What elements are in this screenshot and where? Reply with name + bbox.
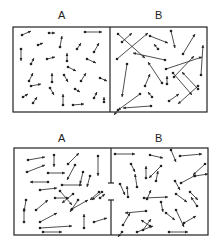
molecule-velocity-arrow — [62, 94, 65, 106]
molecule-velocity-arrow — [103, 97, 106, 103]
molecule-velocity-arrow — [26, 165, 45, 174]
molecule-diagram-canvas — [0, 0, 219, 244]
arrowhead-icon — [99, 31, 102, 34]
molecule-velocity-arrow — [178, 85, 199, 104]
velocity-line — [125, 211, 146, 213]
molecule-velocity-arrow — [170, 149, 176, 162]
arrowhead-icon — [62, 94, 65, 97]
molecule-velocity-arrow — [30, 181, 49, 184]
velocity-line — [166, 57, 202, 69]
molecule-velocity-arrow — [165, 212, 175, 220]
molecule-velocity-arrow — [20, 48, 23, 61]
molecule-velocity-arrow — [86, 175, 91, 187]
arrowhead-icon — [132, 153, 135, 156]
molecule-velocity-arrow — [134, 174, 138, 188]
molecule-velocity-arrow — [168, 94, 179, 102]
arrowhead-icon — [30, 181, 33, 184]
molecule-velocity-arrow — [42, 231, 62, 234]
molecule-velocity-arrow — [74, 88, 80, 92]
arrowhead-icon — [62, 172, 65, 175]
arrowhead-icon — [126, 186, 129, 189]
arrowhead-icon — [201, 45, 204, 48]
arrowhead-icon — [97, 173, 100, 176]
velocity-line — [178, 86, 198, 104]
arrowhead-icon — [79, 184, 82, 187]
top-panel — [13, 27, 207, 115]
molecule-velocity-arrow — [194, 173, 208, 177]
molecule-velocity-arrow — [61, 184, 82, 187]
arrowhead-icon — [59, 231, 62, 234]
molecule-velocity-arrow — [80, 73, 86, 82]
arrowhead-icon — [52, 32, 55, 35]
bottom-panel — [14, 148, 208, 237]
molecule-velocity-arrow — [174, 180, 180, 190]
arrowhead-icon — [156, 171, 159, 174]
molecule-velocity-arrow — [175, 193, 187, 202]
velocity-line — [133, 53, 165, 60]
velocity-line — [201, 45, 203, 75]
molecule-velocity-arrow — [99, 77, 107, 81]
molecule-velocity-arrow — [84, 31, 102, 34]
molecule-velocity-arrow — [86, 58, 96, 63]
molecule-velocity-arrow — [66, 53, 69, 62]
velocity-line — [40, 226, 72, 228]
molecule-velocity-arrow — [97, 155, 100, 176]
molecule-velocity-arrow — [90, 191, 100, 200]
molecule-velocity-arrow — [67, 153, 79, 165]
molecule-velocity-arrow — [23, 208, 26, 223]
molecule-velocity-arrow — [67, 164, 76, 180]
molecule-velocity-arrow — [28, 73, 33, 82]
arrowhead-icon — [123, 106, 126, 109]
arrowhead-icon — [60, 36, 63, 39]
arrowhead-icon — [161, 209, 164, 212]
velocity-line — [123, 106, 151, 108]
molecule-velocity-arrow — [160, 201, 164, 212]
molecule-velocity-arrow — [76, 43, 81, 50]
molecule-velocity-arrow — [122, 213, 130, 226]
molecule-velocity-arrow — [180, 175, 196, 184]
molecule-velocity-arrow — [93, 43, 99, 53]
molecule-velocity-arrow — [123, 105, 152, 109]
molecule-velocity-arrow — [149, 35, 168, 44]
molecule-velocity-arrow — [183, 216, 196, 224]
molecule-velocity-arrow — [93, 92, 97, 99]
molecule-velocity-arrow — [48, 32, 55, 35]
arrowhead-icon — [185, 231, 188, 234]
velocity-line — [183, 34, 195, 54]
arrowhead-icon — [53, 164, 56, 167]
molecule-velocity-arrow — [118, 231, 123, 237]
molecule-velocity-arrow — [165, 57, 202, 71]
molecule-velocity-arrow — [173, 56, 194, 78]
molecule-velocity-arrow — [92, 191, 103, 200]
velocity-line — [150, 36, 168, 43]
molecule-velocity-arrow — [172, 72, 192, 95]
molecule-velocity-arrow — [148, 92, 153, 98]
arrowhead-icon — [42, 156, 45, 159]
arrowhead-icon — [81, 103, 84, 106]
molecule-velocity-arrow — [126, 186, 129, 198]
molecule-velocity-arrow — [39, 187, 57, 191]
molecule-velocity-arrow — [39, 213, 57, 223]
velocity-line — [40, 213, 57, 222]
molecule-velocity-arrow — [49, 87, 54, 95]
molecule-velocity-arrow — [59, 190, 72, 205]
molecule-velocity-arrow — [146, 190, 151, 200]
molecule-velocity-arrow — [30, 58, 34, 65]
molecule-velocity-arrow — [47, 172, 65, 175]
molecule-velocity-arrow — [130, 163, 135, 172]
molecule-velocity-arrow — [37, 43, 43, 47]
molecule-velocity-arrow — [83, 214, 86, 229]
molecule-velocity-arrow — [39, 225, 72, 230]
molecule-velocity-arrow — [63, 74, 68, 82]
molecule-velocity-arrow — [32, 97, 37, 104]
molecule-velocity-arrow — [136, 226, 153, 234]
arrowhead-icon — [103, 97, 106, 100]
molecule-velocity-arrow — [148, 62, 163, 84]
molecule-velocity-arrow — [117, 33, 145, 58]
molecule-velocity-arrow — [170, 30, 176, 48]
molecule-velocity-arrow — [53, 154, 56, 167]
molecule-velocity-arrow — [79, 171, 84, 184]
molecule-velocity-arrow — [149, 154, 163, 159]
velocity-line — [27, 165, 45, 172]
molecule-velocity-arrow — [71, 200, 88, 210]
